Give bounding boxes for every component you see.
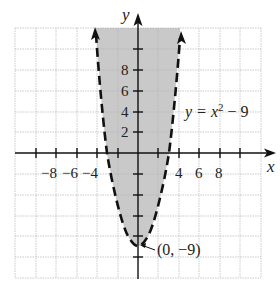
x-tick-label: −6 <box>62 165 78 181</box>
equation-label: y = x2 − 9 <box>183 101 249 121</box>
y-tick-label: 8 <box>121 62 129 78</box>
graph: y x −8 −6 −4 4 6 8 8 6 4 2 y = x2 − 9 (0… <box>0 0 280 290</box>
vertex-label: (0, −9) <box>157 241 201 259</box>
x-tick-label: 4 <box>175 165 183 181</box>
y-tick-label: 2 <box>121 124 129 140</box>
vertex-pointer <box>144 246 155 250</box>
x-tick-label: 8 <box>215 165 223 181</box>
x-tick-label: −8 <box>41 165 57 181</box>
x-tick-label: −4 <box>82 165 98 181</box>
y-tick-label: 4 <box>121 104 129 120</box>
y-tick-label: 6 <box>121 83 129 99</box>
x-tick-label: 6 <box>195 165 203 181</box>
x-axis-label: x <box>266 157 275 176</box>
y-axis-label: y <box>120 5 130 24</box>
